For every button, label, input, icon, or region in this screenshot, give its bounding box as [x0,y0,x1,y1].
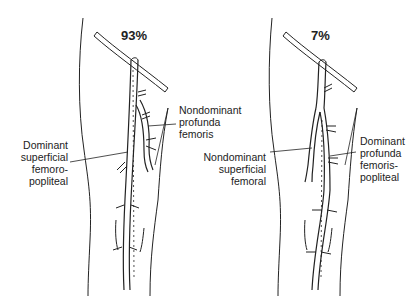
percentage-label-left: 93% [121,28,147,43]
leader-line-superficial [70,152,128,162]
label-dominant-superficial-femoro-popliteal: Dominant superficial femoro- popliteal [16,139,68,187]
thigh-outline-left [79,18,90,296]
leader-line-profunda [148,124,176,126]
vessel-dominance-figure: 93% Nondominant profunda femoris Dominan… [0,0,420,296]
thigh-outline-left-2 [269,18,280,296]
thigh-outline-right [150,108,168,296]
percentage-label-right: 7% [311,28,330,43]
label-nondominant-superficial-femoral: Nondominant superficial femoral [192,151,266,187]
thigh-outline-right-2 [340,108,357,296]
label-dominant-profunda-femoris-popliteal: Dominant profunda femoris- popliteal [360,135,405,183]
label-nondominant-profunda-femoris: Nondominant profunda femoris [179,104,241,140]
